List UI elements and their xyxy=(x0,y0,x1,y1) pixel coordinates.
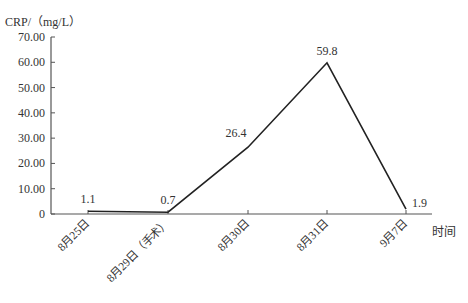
y-axis-title: CRP/（mg/L） xyxy=(5,15,81,29)
data-labels: 1.10.726.459.81.9 xyxy=(81,44,428,210)
y-tick-label: 70.00 xyxy=(18,30,45,44)
x-axis-title: 时间 xyxy=(432,225,456,239)
x-axis: 8月25日8月29日（手术）8月30日8月31日9月7日 xyxy=(51,210,432,284)
data-label: 26.4 xyxy=(226,126,247,140)
y-tick-label: 10.00 xyxy=(18,182,45,196)
x-tick-label: 9月7日 xyxy=(377,217,409,249)
y-tick-label: 0 xyxy=(39,207,45,221)
crp-line-chart: CRP/（mg/L） 010.0020.0030.0040.0050.0060.… xyxy=(0,0,468,303)
data-label: 59.8 xyxy=(317,44,338,58)
y-tick-label: 20.00 xyxy=(18,156,45,170)
x-tick-label: 8月30日 xyxy=(215,217,251,253)
crp-series-line xyxy=(88,63,406,212)
y-tick-label: 40.00 xyxy=(18,106,45,120)
x-tick-label: 8月25日 xyxy=(55,217,91,253)
x-tick-label: 8月31日 xyxy=(294,217,330,253)
x-tick-label: 8月29日（手术） xyxy=(103,216,171,284)
data-label: 1.1 xyxy=(81,192,96,206)
y-axis: 010.0020.0030.0040.0050.0060.0070.00 xyxy=(18,30,55,221)
y-tick-label: 50.00 xyxy=(18,81,45,95)
y-tick-label: 30.00 xyxy=(18,131,45,145)
data-label: 0.7 xyxy=(161,193,176,207)
y-tick-label: 60.00 xyxy=(18,55,45,69)
data-label: 1.9 xyxy=(412,196,427,210)
